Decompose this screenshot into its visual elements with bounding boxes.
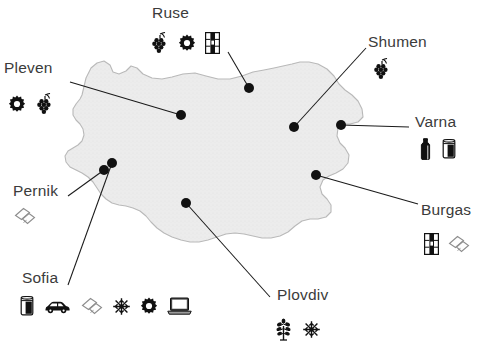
flower-icon	[302, 320, 321, 339]
grapes-icon	[150, 32, 169, 54]
city-label-sofia[interactable]: Sofia	[22, 270, 58, 286]
book-icon	[424, 233, 439, 255]
papers-icon	[81, 297, 103, 316]
city-label-pernik[interactable]: Pernik	[13, 183, 58, 199]
country-outline	[65, 61, 363, 242]
icon-row-varna	[418, 138, 456, 160]
car-icon	[43, 299, 72, 314]
city-label-ruse[interactable]: Ruse	[152, 5, 189, 21]
leader-line-varna	[341, 125, 409, 127]
city-dot-shumen[interactable]	[289, 122, 299, 132]
city-dot-ruse[interactable]	[244, 83, 254, 93]
city-dot-pernik[interactable]	[99, 165, 109, 175]
bulgaria-industry-map: Ruse Pleven	[0, 0, 482, 353]
gear-icon	[178, 34, 196, 52]
can-icon	[20, 296, 34, 316]
city-dot-plovdiv[interactable]	[181, 198, 191, 208]
grapes-icon	[372, 58, 391, 80]
icon-row-ruse	[150, 32, 220, 54]
laptop-icon	[167, 297, 192, 316]
icon-row-plovdiv	[274, 318, 321, 341]
icon-row-pleven	[8, 93, 54, 115]
city-label-plovdiv[interactable]: Plovdiv	[277, 287, 328, 303]
icon-row-pernik	[14, 207, 36, 226]
city-dot-sofia[interactable]	[107, 158, 117, 168]
papers-icon	[14, 207, 36, 226]
leader-line-sofia	[68, 163, 112, 285]
gear-icon	[8, 95, 26, 113]
icon-row-burgas	[424, 233, 470, 255]
gear-icon	[140, 297, 158, 315]
bottle-icon	[418, 138, 433, 160]
city-dot-burgas[interactable]	[311, 170, 321, 180]
flower-icon	[112, 297, 131, 316]
book-icon	[205, 32, 220, 54]
papers-icon	[448, 235, 470, 254]
icon-row-sofia	[20, 296, 192, 316]
grapes-icon	[35, 93, 54, 115]
icon-row-shumen	[372, 58, 391, 80]
leader-line-burgas	[316, 175, 418, 204]
can-icon	[442, 139, 456, 159]
city-label-shumen[interactable]: Shumen	[368, 34, 427, 50]
plant-icon	[274, 318, 293, 341]
city-label-varna[interactable]: Varna	[415, 114, 456, 130]
city-label-pleven[interactable]: Pleven	[4, 60, 53, 76]
city-dot-varna[interactable]	[336, 120, 346, 130]
city-label-burgas[interactable]: Burgas	[421, 202, 471, 218]
city-dot-pleven[interactable]	[176, 110, 186, 120]
